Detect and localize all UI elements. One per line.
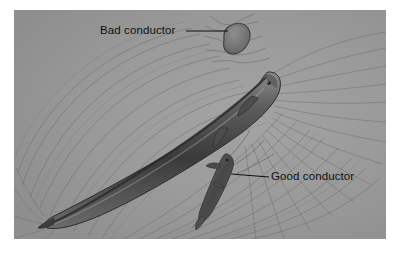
figure-container: Bad conductor Good conductor <box>0 0 409 255</box>
label-good-conductor: Good conductor <box>271 171 354 183</box>
illustration-panel <box>14 10 386 239</box>
field-illustration <box>14 10 386 239</box>
label-bad-conductor: Bad conductor <box>100 25 175 37</box>
